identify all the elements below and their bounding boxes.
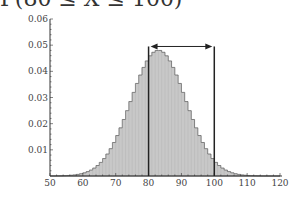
x-tick-label: 100 <box>206 178 223 188</box>
x-tick-label: 50 <box>44 178 56 188</box>
x-tick-label: 120 <box>271 178 288 188</box>
arrow-head-left-icon <box>151 43 158 49</box>
x-tick-label: 60 <box>77 178 89 188</box>
y-tick-label: 0.04 <box>28 66 48 76</box>
x-tick-label: 90 <box>176 178 188 188</box>
arrow-head-right-icon <box>205 43 212 49</box>
y-tick-label: 0.02 <box>28 119 48 129</box>
x-tick-label: 70 <box>110 178 122 188</box>
y-tick-label: 0.03 <box>28 93 48 103</box>
y-tick-label: 0.06 <box>28 14 48 24</box>
y-tick-label: 0.01 <box>28 145 48 155</box>
x-tick-label: 80 <box>143 178 155 188</box>
y-tick-label: 0.05 <box>28 40 48 50</box>
x-tick-label: 110 <box>239 178 256 188</box>
histogram-chart: 50607080901001101200.010.020.030.040.050… <box>0 0 302 199</box>
